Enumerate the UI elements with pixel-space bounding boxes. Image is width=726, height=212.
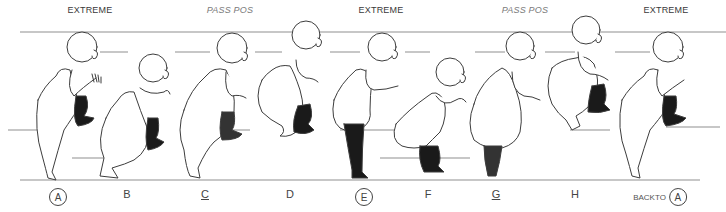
frame-label-d: D [286,188,294,200]
frame-label-h: H [571,188,579,200]
frame-label-a: A [49,188,67,206]
animation-sheet: EXTREME PASS POS EXTREME PASS POS EXTREM… [0,0,726,212]
frame-letter: F [425,188,432,200]
pose-back-to-a [620,32,686,178]
pose-g [470,32,540,176]
pose-f [394,58,466,172]
circled-marker: A [49,188,67,206]
header-extreme-2: EXTREME [359,5,404,15]
frame-letter: B [123,188,130,200]
frame-label-b: B [123,188,130,200]
frame-letter: H [571,188,579,200]
pose-b [100,54,170,178]
header-extreme-3: EXTREME [644,5,689,15]
circled-marker: A [669,188,687,206]
back-to-text: BACKTO [633,193,666,202]
frame-label-c: C [201,188,209,200]
pose-d [258,21,322,136]
frame-letter: C [201,188,209,200]
frame-label-back-to-a: BACKTO A [633,188,687,206]
frame-label-f: F [425,188,432,200]
pose-c [180,33,248,178]
frame-label-e: E [355,188,373,206]
header-extreme-1: EXTREME [68,5,113,15]
frame-label-g: G [492,188,501,200]
pose-a [37,32,101,180]
pose-e [333,33,398,178]
circled-marker: E [355,188,373,206]
header-pass-pos-1: PASS POS [207,5,253,15]
pose-h [548,16,610,130]
character-poses [0,0,726,212]
frame-letter: D [286,188,294,200]
header-pass-pos-2: PASS POS [502,5,548,15]
frame-letter: G [492,188,501,200]
